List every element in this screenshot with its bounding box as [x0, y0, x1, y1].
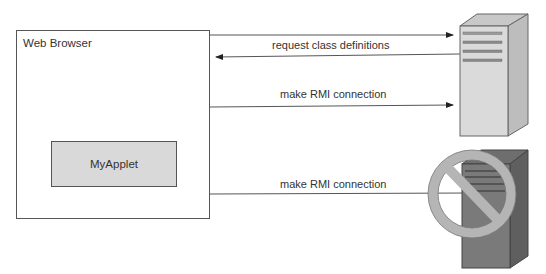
arrow-label-rmi-allowed: make RMI connection	[280, 88, 386, 100]
arrow-rmi-allowed	[210, 105, 453, 107]
applet-label: MyApplet	[90, 158, 138, 170]
allowed-server-icon	[460, 14, 528, 136]
web-browser-label: Web Browser	[23, 37, 92, 49]
arrow-label-class-definitions: request class definitions	[272, 39, 389, 51]
web-browser-box: Web Browser	[16, 30, 210, 219]
arrow-label-rmi-blocked: make RMI connection	[280, 178, 386, 190]
applet-box: MyApplet	[51, 141, 177, 187]
arrow-class-definitions	[216, 54, 460, 57]
